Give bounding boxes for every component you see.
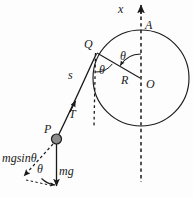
radius-label: R (121, 74, 128, 86)
angle-arc-at-p (42, 179, 56, 186)
angle-q-label: θ (99, 64, 105, 76)
bead-point-P (52, 134, 62, 144)
angle-p-label: θ (37, 163, 43, 175)
figure-canvas (0, 0, 193, 197)
x-axis-label: x (118, 3, 123, 15)
point-p-label: P (44, 123, 51, 135)
point-q-label: Q (84, 38, 93, 50)
dashed-component-link (26, 180, 54, 186)
point-a-label: A (145, 19, 152, 31)
string-segment-PQ (57, 54, 97, 139)
angle-center-label: θ (120, 50, 126, 62)
arc-length-label: s (68, 69, 73, 81)
weight-label: mg (59, 165, 74, 177)
point-o-label: O (146, 78, 155, 90)
tension-label: T (69, 108, 76, 120)
physics-figure: x A Q O R θ θ s T P mgsinθ mg θ (0, 0, 193, 197)
tangential-weight-label: mgsinθ (2, 152, 37, 164)
